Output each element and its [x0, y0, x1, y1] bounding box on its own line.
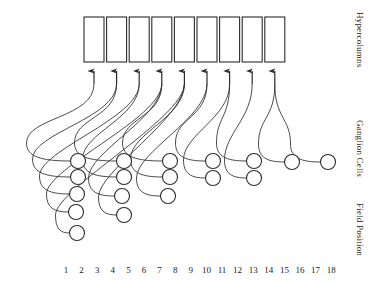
ganglion-cell: [70, 187, 85, 202]
field-position-tick: 17: [309, 265, 323, 276]
field-position-tick: 3: [90, 265, 104, 276]
field-position-tick: 13: [246, 265, 260, 276]
field-position-tick: 16: [293, 265, 307, 276]
hypercolumn-rect: [220, 17, 240, 62]
arrow-layer: [94, 71, 275, 84]
axis-label-field-position: Field Position: [355, 203, 365, 256]
ganglion-cell: [247, 171, 262, 186]
field-position-tick: 8: [168, 265, 182, 276]
ganglion-cell: [285, 155, 300, 170]
ganglion-cell: [247, 154, 262, 169]
field-position-tick: 5: [121, 265, 135, 276]
ganglion-to-hypercolumn-curve: [259, 84, 285, 162]
field-position-tick: 18: [324, 265, 338, 276]
ganglion-to-hypercolumn-curve: [275, 84, 321, 162]
ganglion-to-hypercolumn-curve: [47, 84, 162, 212]
figure-canvas: 123456789101112131415161718 Hypercolumns…: [0, 0, 385, 284]
hypercolumn-rect: [174, 17, 194, 62]
ganglion-to-hypercolumn-curve: [217, 84, 247, 161]
ganglion-cell: [163, 170, 178, 185]
ganglion-cell: [71, 170, 86, 185]
ganglion-cell: [117, 208, 132, 223]
hypercolumn-rect: [242, 17, 262, 62]
field-position-tick: 2: [75, 265, 89, 276]
hypercolumn-rect: [197, 17, 217, 62]
ganglion-cell-layer: [69, 154, 336, 241]
field-position-tick: 4: [106, 265, 120, 276]
field-position-tick: 15: [277, 265, 291, 276]
hypercolumn-rect: [152, 17, 172, 62]
ganglion-cell: [321, 155, 336, 170]
ganglion-cell: [70, 226, 85, 241]
field-position-tick: 10: [199, 265, 213, 276]
ganglion-cell: [115, 189, 130, 204]
field-position-tick: 1: [59, 265, 73, 276]
ganglion-cell: [117, 170, 132, 185]
ganglion-cell: [69, 205, 84, 220]
field-position-tick: 7: [153, 265, 167, 276]
field-position-tick: 9: [184, 265, 198, 276]
ganglion-cell: [206, 171, 221, 186]
axis-label-ganglion-cells: Ganglion Cells: [355, 120, 365, 177]
field-position-tick: 6: [137, 265, 151, 276]
hypercolumn-rect: [265, 17, 285, 62]
hypercolumn-rect: [107, 17, 127, 62]
ganglion-to-hypercolumn-curve: [75, 84, 117, 161]
ganglion-cell: [206, 154, 221, 169]
axis-label-hypercolumns: Hypercolumns: [355, 12, 365, 67]
field-position-tick: 11: [215, 265, 229, 276]
hypercolumn-rect: [84, 17, 104, 62]
ganglion-cell: [161, 189, 176, 204]
diagram-svg: [0, 0, 385, 284]
hypercolumn-layer: [84, 17, 285, 62]
field-position-tick: 12: [231, 265, 245, 276]
ganglion-cell: [163, 154, 178, 169]
field-position-tick: 14: [262, 265, 276, 276]
ganglion-cell: [117, 154, 132, 169]
hypercolumn-rect: [129, 17, 149, 62]
ganglion-cell: [71, 154, 86, 169]
